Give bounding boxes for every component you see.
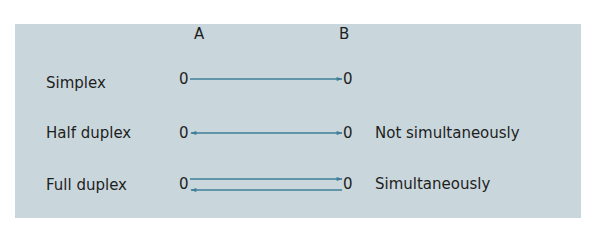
arrows-layer — [0, 0, 589, 230]
